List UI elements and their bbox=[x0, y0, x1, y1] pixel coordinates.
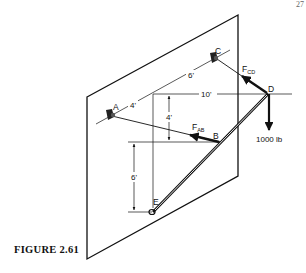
force-fcd-arrow bbox=[242, 76, 267, 93]
statics-diagram: A B C D E FAB FCD 1000 lb 4' 6' 10' 4' 6… bbox=[0, 0, 306, 273]
label-point-d: D bbox=[268, 84, 274, 94]
label-force-fcd: FCD bbox=[242, 64, 255, 75]
label-dim-ac-4: 4' bbox=[130, 101, 136, 110]
label-dim-horizontal-10: 10' bbox=[201, 90, 212, 99]
label-load: 1000 lb bbox=[256, 135, 283, 144]
label-point-e: E bbox=[153, 197, 159, 207]
ac-axis-line bbox=[96, 50, 230, 124]
label-dim-ac-6: 6' bbox=[188, 71, 194, 80]
figure-caption: FIGURE 2.61 bbox=[14, 244, 79, 255]
label-point-a: A bbox=[113, 102, 119, 112]
label-point-c: C bbox=[215, 46, 221, 56]
label-dim-vertical-4: 4' bbox=[166, 113, 172, 122]
label-point-b: B bbox=[213, 131, 219, 141]
label-force-fab: FAB bbox=[192, 122, 205, 133]
label-dim-vertical-6: 6' bbox=[131, 173, 137, 182]
